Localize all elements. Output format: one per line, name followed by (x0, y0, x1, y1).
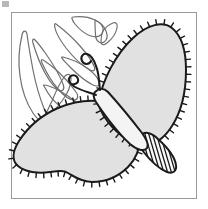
butterfly-pattern-figure: Butterfly Applique Quilting Pattern Line… (0, 0, 208, 209)
stitch-tick-2 (80, 97, 81, 102)
stitch-tick-19 (184, 51, 189, 52)
stitch-tick-28 (99, 182, 100, 187)
stitch-tick-13 (156, 20, 157, 25)
pattern-canvas (0, 0, 208, 209)
stitch-tick-24 (185, 89, 190, 90)
stitch-tick-14 (164, 20, 165, 25)
stitch-tick-21 (51, 172, 52, 177)
stitch-tick-25 (183, 96, 188, 97)
scan-smudge-artifact (2, 1, 9, 7)
stitch-tick-15 (9, 158, 14, 159)
